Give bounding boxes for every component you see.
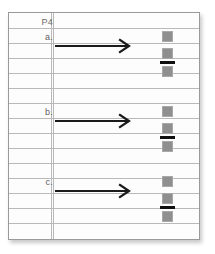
ruled-paper-card: P4 a. b. c. bbox=[8, 12, 200, 240]
item-label-c: c. bbox=[46, 177, 53, 187]
screenshot-root: P4 a. b. c. bbox=[0, 0, 215, 254]
marker-square bbox=[162, 66, 173, 77]
marker-square bbox=[162, 106, 173, 117]
rule-line bbox=[9, 223, 199, 224]
right-arrow-icon-c bbox=[55, 184, 135, 198]
underline-bar bbox=[160, 206, 175, 209]
rule-line bbox=[9, 88, 199, 89]
marker-square bbox=[162, 123, 173, 134]
rule-line bbox=[9, 103, 199, 104]
marker-square bbox=[162, 193, 173, 204]
item-label-a: a. bbox=[45, 32, 53, 42]
page-label: P4 bbox=[42, 17, 53, 27]
margin-divider-line bbox=[53, 13, 54, 239]
right-arrow-icon-a bbox=[55, 39, 135, 53]
marker-square bbox=[162, 211, 173, 222]
margin-divider-line bbox=[51, 13, 52, 239]
underline-bar bbox=[160, 61, 175, 64]
marker-square bbox=[162, 141, 173, 152]
underline-bar bbox=[160, 136, 175, 139]
rule-line bbox=[9, 163, 199, 164]
marker-square bbox=[162, 31, 173, 42]
rule-line bbox=[9, 28, 199, 29]
marker-square bbox=[162, 48, 173, 59]
right-arrow-icon-b bbox=[55, 114, 135, 128]
marker-square bbox=[162, 176, 173, 187]
item-label-b: b. bbox=[45, 107, 53, 117]
